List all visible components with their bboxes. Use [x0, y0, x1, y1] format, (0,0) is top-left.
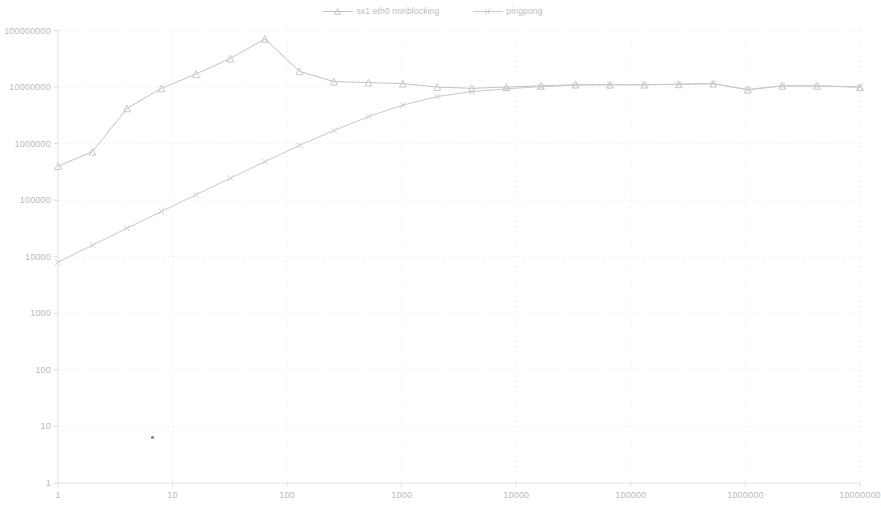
y-axis-tick-label: 1000 — [30, 308, 51, 318]
stray-dot-artifact — [151, 436, 154, 439]
x-axis-tick-label: 10000 — [503, 490, 529, 500]
y-axis-tick-label: 1000000 — [15, 139, 51, 149]
y-axis-tick-label: 1 — [46, 478, 51, 488]
series-line — [58, 84, 860, 263]
x-axis-tick-label: 10000000 — [839, 490, 881, 500]
y-axis-tick-label: 100000000 — [4, 26, 51, 36]
x-axis-tick-label: 1000 — [391, 490, 412, 500]
y-axis-tick-label: 100 — [35, 365, 51, 375]
series-1 — [55, 81, 863, 265]
y-axis-tick-label: 10000 — [25, 252, 51, 262]
x-axis-tick-label: 1 — [55, 490, 60, 500]
axis-ticks — [54, 31, 860, 488]
series-line — [58, 39, 860, 166]
y-axis-tick-label: 10000000 — [9, 82, 51, 92]
y-axis-tick-label: 10 — [41, 421, 51, 431]
x-axis-tick-label: 100000 — [615, 490, 646, 500]
y-axis-tick-label: 100000 — [20, 195, 51, 205]
series-0 — [55, 36, 864, 170]
x-axis-tick-label: 100 — [279, 490, 295, 500]
gridlines — [58, 31, 860, 484]
x-axis-tick-label: 1000000 — [727, 490, 763, 500]
x-axis-tick-label: 10 — [167, 490, 177, 500]
